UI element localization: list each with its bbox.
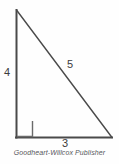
triangle-diagram bbox=[0, 0, 119, 164]
attribution-credit: Goodheart-Willcox Publisher bbox=[0, 149, 119, 156]
side-label-horizontal-leg: 3 bbox=[62, 138, 68, 149]
right-angle-marker bbox=[17, 121, 33, 137]
side-label-hypotenuse: 5 bbox=[67, 59, 73, 70]
right-triangle-figure: 4 5 3 Goodheart-Willcox Publisher bbox=[0, 0, 119, 164]
hypotenuse-line bbox=[17, 10, 113, 138]
triangle-outline bbox=[16, 10, 112, 138]
side-label-vertical-leg: 4 bbox=[4, 67, 10, 78]
